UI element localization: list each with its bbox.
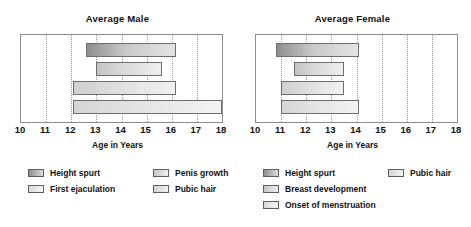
x-tick-label: 12 xyxy=(65,124,76,135)
legend-swatch-icon xyxy=(28,169,44,177)
bar-height-spurt xyxy=(276,43,359,57)
legend-swatch-icon xyxy=(153,185,169,193)
legend-male-column-b: Penis growth Pubic hair xyxy=(153,165,228,197)
chart-title-female: Average Female xyxy=(235,13,470,24)
legend-item-label: Pubic hair xyxy=(410,168,451,178)
x-tick-label: 14 xyxy=(115,124,126,135)
x-tick-label: 10 xyxy=(15,124,26,135)
x-tick-label: 16 xyxy=(165,124,176,135)
x-tick-label: 16 xyxy=(400,124,411,135)
x-axis-female: 101112131415161718 xyxy=(255,124,456,138)
legend-male-column-a: Height spurt First ejaculation xyxy=(28,165,115,197)
legend-swatch-icon xyxy=(263,201,279,209)
legend-female: Height spurt Breast development Onset of… xyxy=(263,165,468,210)
plot-area-male xyxy=(20,34,223,123)
legend-item-label: Breast development xyxy=(285,184,366,194)
x-tick-label: 15 xyxy=(375,124,386,135)
x-tick-label: 10 xyxy=(250,124,261,135)
x-tick-label: 15 xyxy=(140,124,151,135)
x-tick-label: 11 xyxy=(40,124,50,135)
legend-item: First ejaculation xyxy=(28,181,115,196)
bar-penis-growth xyxy=(96,62,161,76)
legend-item: Pubic hair xyxy=(153,181,228,196)
legend-swatch-icon xyxy=(263,169,279,177)
x-tick-label: 12 xyxy=(300,124,311,135)
chart-panel-female: Average Female 101112131415161718 Age in… xyxy=(235,0,470,227)
legend-swatch-icon xyxy=(153,169,169,177)
bar-first-ejaculation xyxy=(73,100,222,114)
bar-onset-of-menstruation xyxy=(281,100,359,114)
bar-pubic-hair xyxy=(73,81,176,95)
x-tick-label: 14 xyxy=(350,124,361,135)
x-tick-label: 17 xyxy=(191,124,202,135)
bar-pubic-hair xyxy=(281,81,344,95)
legend-swatch-icon xyxy=(388,169,404,177)
x-axis-male: 101112131415161718 xyxy=(20,124,221,138)
legend-item-label: First ejaculation xyxy=(50,184,115,194)
x-tick-label: 13 xyxy=(325,124,336,135)
legend-item-label: Onset of menstruation xyxy=(285,200,376,210)
legend-item: Penis growth xyxy=(153,165,228,180)
legend-swatch-icon xyxy=(28,185,44,193)
legend-item-label: Penis growth xyxy=(175,168,228,178)
bars-female xyxy=(256,35,457,122)
x-tick-label: 11 xyxy=(275,124,285,135)
legend-item-label: Pubic hair xyxy=(175,184,216,194)
legend-item: Pubic hair xyxy=(388,165,451,180)
bar-height-spurt xyxy=(86,43,175,57)
x-axis-label-male: Age in Years xyxy=(0,140,235,150)
legend-item: Height spurt xyxy=(263,165,376,180)
plot-area-female xyxy=(255,34,458,123)
legend-female-column-b: Pubic hair xyxy=(388,165,451,181)
chart-panel-male: Average Male 101112131415161718 Age in Y… xyxy=(0,0,235,227)
x-tick-label: 17 xyxy=(426,124,437,135)
legend-item: Height spurt xyxy=(28,165,115,180)
x-tick-label: 13 xyxy=(90,124,101,135)
chart-title-male: Average Male xyxy=(0,13,235,24)
figure-root: Average Male 101112131415161718 Age in Y… xyxy=(0,0,471,227)
legend-swatch-icon xyxy=(263,185,279,193)
bar-breast-development xyxy=(294,62,344,76)
legend-male: Height spurt First ejaculation Penis gro… xyxy=(28,165,233,210)
legend-item-label: Height spurt xyxy=(50,168,100,178)
legend-item: Breast development xyxy=(263,181,376,196)
legend-item: Onset of menstruation xyxy=(263,197,376,212)
legend-female-column-a: Height spurt Breast development Onset of… xyxy=(263,165,376,213)
x-axis-label-female: Age in Years xyxy=(235,140,470,150)
legend-item-label: Height spurt xyxy=(285,168,335,178)
bars-male xyxy=(21,35,222,122)
x-tick-label: 18 xyxy=(451,124,462,135)
x-tick-label: 18 xyxy=(216,124,227,135)
